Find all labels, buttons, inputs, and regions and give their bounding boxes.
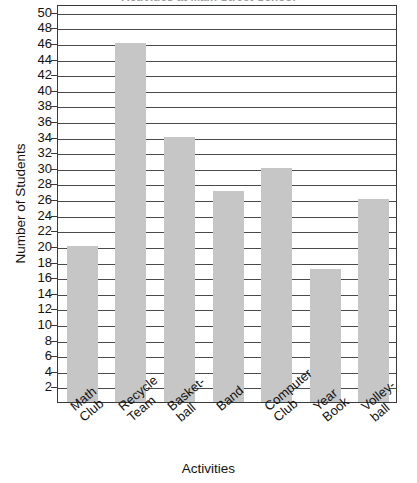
y-tick-label: 42 xyxy=(16,68,52,81)
gridline xyxy=(58,107,396,108)
gridline xyxy=(58,92,396,93)
y-tick-label: 48 xyxy=(16,21,52,34)
bar xyxy=(115,43,146,402)
gridline xyxy=(58,185,396,186)
y-axis-title: Number of Students xyxy=(13,114,28,294)
x-axis-tick-labels: Math ClubRecycle TeamBasket- ballBandCom… xyxy=(57,403,397,463)
y-tick-label: 2 xyxy=(16,380,52,393)
y-tick-label: 10 xyxy=(16,318,52,331)
plot-area xyxy=(57,5,397,403)
gridline xyxy=(58,139,396,140)
gridline xyxy=(58,170,396,171)
y-tick-label: 4 xyxy=(16,365,52,378)
gridline xyxy=(58,29,396,30)
y-tick-label: 38 xyxy=(16,99,52,112)
gridline xyxy=(58,76,396,77)
bar xyxy=(67,246,98,402)
y-tick-label: 50 xyxy=(16,6,52,19)
y-tick-label: 8 xyxy=(16,334,52,347)
y-tick-label: 12 xyxy=(16,302,52,315)
gridline xyxy=(58,14,396,15)
gridline xyxy=(58,61,396,62)
y-tick-label: 40 xyxy=(16,84,52,97)
bar-chart: Activities at Main Street School Number … xyxy=(0,0,417,483)
gridline xyxy=(58,123,396,124)
gridline xyxy=(58,45,396,46)
x-axis-title: Activities xyxy=(0,461,417,476)
y-tick-label: 46 xyxy=(16,37,52,50)
y-tick-label: 44 xyxy=(16,53,52,66)
gridline xyxy=(58,154,396,155)
y-tick-label: 6 xyxy=(16,349,52,362)
